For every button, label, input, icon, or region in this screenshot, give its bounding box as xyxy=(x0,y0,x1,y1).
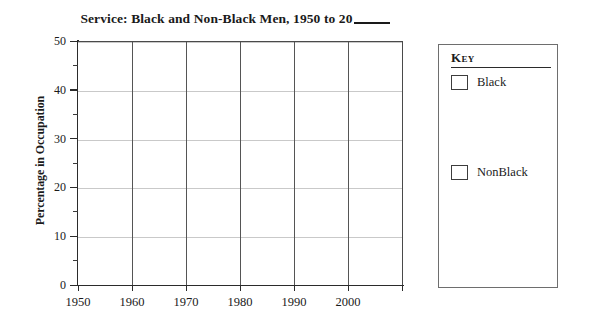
x-tick-label-1980: 1980 xyxy=(210,296,270,309)
plot-area xyxy=(78,41,403,285)
y-tick-major xyxy=(70,187,78,188)
y-tick-major xyxy=(70,41,78,42)
gridline-vertical xyxy=(348,42,349,285)
y-tick-label-0: 0 xyxy=(26,279,66,291)
legend-swatch-nonblack xyxy=(451,165,468,180)
x-tick xyxy=(348,285,349,291)
chart-title: Service: Black and Non-Black Men, 1950 t… xyxy=(0,11,470,27)
gridline-vertical xyxy=(294,42,295,285)
gridline-vertical xyxy=(186,42,187,285)
y-tick-label-40: 40 xyxy=(26,84,66,96)
x-tick xyxy=(132,285,133,291)
y-tick-label-50: 50 xyxy=(26,35,66,47)
legend-swatch-black xyxy=(451,75,468,90)
y-tick-major xyxy=(70,89,78,90)
x-tick xyxy=(186,285,187,291)
y-tick-minor xyxy=(73,260,78,261)
y-tick-minor xyxy=(73,114,78,115)
chart-title-blank-underline xyxy=(354,22,390,24)
y-tick-label-30: 30 xyxy=(26,133,66,145)
x-tick xyxy=(240,285,241,291)
y-tick-minor xyxy=(73,65,78,66)
legend-key-box: Key Black NonBlack xyxy=(438,44,558,288)
x-tick-label-1960: 1960 xyxy=(102,296,162,309)
gridline-vertical xyxy=(240,42,241,285)
legend-label-black: Black xyxy=(477,76,506,89)
y-tick-label-20: 20 xyxy=(26,181,66,193)
y-tick-major xyxy=(70,138,78,139)
x-tick xyxy=(78,285,79,291)
legend-entry-black: Black xyxy=(451,75,506,90)
legend-label-nonblack: NonBlack xyxy=(477,166,528,179)
gridline-vertical xyxy=(132,42,133,285)
y-tick-minor xyxy=(73,211,78,212)
x-tick-label-1990: 1990 xyxy=(264,296,324,309)
x-tick-label-1970: 1970 xyxy=(156,296,216,309)
x-tick-label-2000: 2000 xyxy=(318,296,378,309)
y-tick-major xyxy=(70,236,78,237)
y-tick-major xyxy=(70,285,78,286)
x-tick xyxy=(294,285,295,291)
legend-heading: Key xyxy=(451,50,551,68)
y-tick-minor xyxy=(73,163,78,164)
legend-entry-nonblack: NonBlack xyxy=(451,165,528,180)
x-tick xyxy=(402,285,403,291)
chart-title-text: Service: Black and Non-Black Men, 1950 t… xyxy=(80,11,352,26)
x-tick-label-1950: 1950 xyxy=(48,296,108,309)
y-tick-label-10: 10 xyxy=(26,230,66,242)
